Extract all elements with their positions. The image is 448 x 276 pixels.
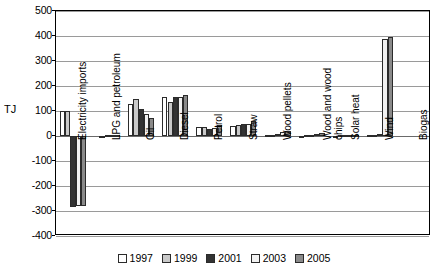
category-label: Wood pellets [282,82,293,140]
y-tick-label-400: 400 [4,30,52,40]
category-label: Straw [248,114,259,140]
legend-label: 2003 [263,252,286,264]
plot-area: Electricity importsLPG and petroleumOilD… [55,10,430,235]
legend-swatch-icon [251,254,260,263]
y-axis-tick-labels: 5004003002001000-100-200-300-400 [0,10,52,235]
bar-chart: TJ 5004003002001000-100-200-300-400 Elec… [0,0,448,276]
y-tick-label-200: 200 [4,80,52,90]
category-label: Wood and wood chips [322,62,344,140]
y-tick-label--400: -400 [4,230,52,240]
y-tick-label-500: 500 [4,5,52,15]
category-label: Electricity imports [77,62,88,140]
y-tick-label-100: 100 [4,105,52,115]
legend-item-1997[interactable]: 1997 [118,252,153,264]
y-tick-label--200: -200 [4,180,52,190]
legend-item-2001[interactable]: 2001 [206,252,241,264]
legend-label: 2005 [307,252,330,264]
legend-item-1999[interactable]: 1999 [162,252,197,264]
bar [65,111,70,136]
legend-swatch-icon [295,254,304,263]
y-tick-label-300: 300 [4,55,52,65]
legend-label: 1997 [130,252,153,264]
bar-group [124,11,158,234]
legend: 19971999200120032005 [0,252,448,264]
legend-label: 2001 [218,252,241,264]
y-tick-label--300: -300 [4,205,52,215]
category-label: Solar heat [350,94,361,140]
legend-label: 1999 [174,252,197,264]
legend-swatch-icon [162,254,171,263]
category-label: LPG and petroleum [111,53,122,140]
legend-item-2003[interactable]: 2003 [251,252,286,264]
legend-item-2005[interactable]: 2005 [295,252,330,264]
bar [81,136,86,206]
category-label: Petrol [213,114,224,140]
category-label: Wind [384,117,395,140]
category-label: Oil [145,128,156,140]
y-tick-label-0: 0 [4,130,52,140]
y-tick-label--100: -100 [4,155,52,165]
legend-swatch-icon [118,254,127,263]
y-tick-mark--400 [52,235,55,236]
legend-swatch-icon [206,254,215,263]
category-label: Biogas [418,109,429,140]
category-label: Diesel [179,112,190,140]
gridline--400 [56,236,429,237]
